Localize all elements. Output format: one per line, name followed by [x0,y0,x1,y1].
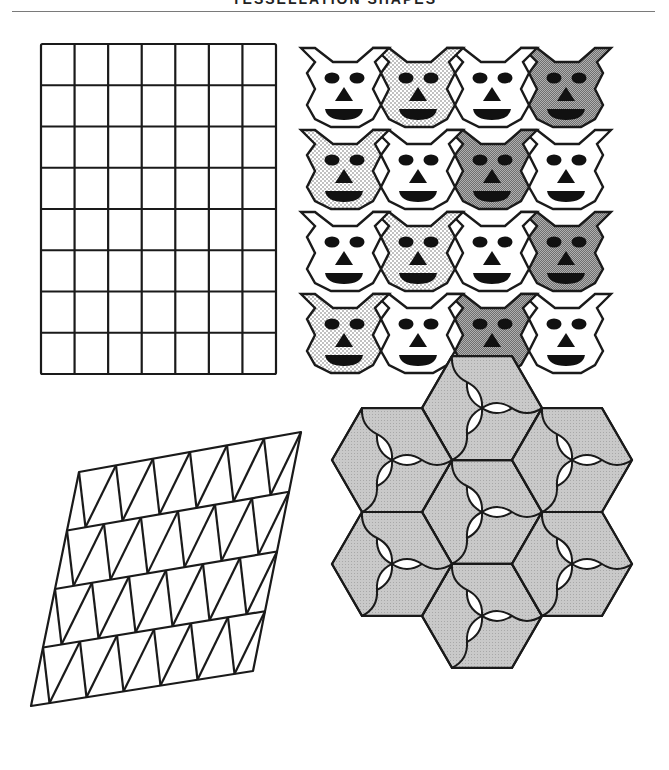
face-tile [449,130,537,209]
face-tile [523,130,611,209]
eye-shape [399,319,414,330]
eye-shape [350,73,365,84]
eye-shape [325,319,340,330]
face-tessellation-figure [301,48,611,373]
hexagon-tessellation-figure [332,356,632,668]
face-tile [301,294,389,373]
face-tile [301,48,389,127]
eye-shape [424,155,439,166]
eye-shape [325,73,340,84]
eye-shape [473,319,488,330]
eye-shape [498,319,513,330]
eye-shape [325,237,340,248]
face-tile [301,130,389,209]
eye-shape [399,237,414,248]
eye-shape [547,73,562,84]
eye-shape [350,155,365,166]
eye-shape [399,73,414,84]
eye-shape [572,155,587,166]
eye-shape [572,73,587,84]
eye-shape [424,319,439,330]
eye-shape [473,73,488,84]
face-tile [449,212,537,291]
eye-shape [498,237,513,248]
face-tile [523,294,611,373]
eye-shape [350,319,365,330]
eye-shape [399,155,414,166]
face-tile [375,212,463,291]
eye-shape [547,155,562,166]
eye-shape [350,237,365,248]
eye-shape [572,319,587,330]
face-tile [375,130,463,209]
triangle-grid-figure [31,432,301,706]
face-tile [449,48,537,127]
face-tile [523,212,611,291]
eye-shape [572,237,587,248]
eye-shape [547,237,562,248]
face-tile [301,212,389,291]
eye-shape [498,73,513,84]
figures-canvas [0,0,669,770]
eye-shape [498,155,513,166]
eye-shape [473,155,488,166]
rectangular-grid-figure [41,44,276,374]
face-tile [523,48,611,127]
eye-shape [424,73,439,84]
eye-shape [473,237,488,248]
eye-shape [325,155,340,166]
face-tile [375,48,463,127]
eye-shape [424,237,439,248]
eye-shape [547,319,562,330]
